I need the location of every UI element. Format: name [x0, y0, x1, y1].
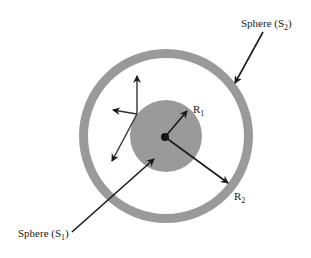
vector-left-arrow — [113, 110, 137, 114]
sphere-s1-label: Sphere (S1) — [18, 227, 69, 242]
concentric-spheres-diagram: Sphere (S2) Sphere (S1) R1 R2 — [0, 0, 311, 258]
sphere-s2-label: Sphere (S2) — [241, 17, 292, 32]
radius-r2-label: R2 — [234, 190, 245, 205]
sphere-s2-pointer-arrow — [235, 32, 263, 83]
sphere-s1-pointer-arrow — [72, 159, 154, 232]
